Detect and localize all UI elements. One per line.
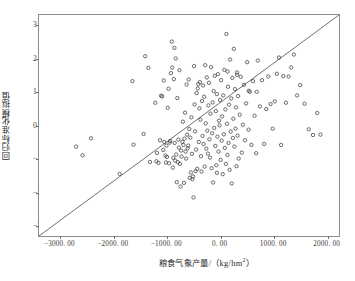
data-point bbox=[231, 136, 234, 139]
data-point-group bbox=[74, 32, 322, 199]
data-point bbox=[142, 132, 145, 135]
data-point bbox=[275, 72, 278, 75]
x-tick-label: −1000. 00 bbox=[151, 240, 182, 248]
data-point bbox=[179, 185, 182, 188]
scatter-plot-figure: 回归标准化模拟值 3210−1−2−3 −3000. 00−2000. 00−1… bbox=[0, 0, 355, 281]
data-point bbox=[279, 143, 282, 146]
data-point bbox=[155, 151, 158, 154]
x-tick-mark bbox=[221, 236, 222, 239]
data-point bbox=[295, 94, 298, 97]
data-point bbox=[162, 79, 165, 82]
data-point bbox=[217, 150, 220, 153]
data-point bbox=[173, 46, 176, 49]
data-point bbox=[147, 66, 150, 69]
y-tick-label: 0 bbox=[33, 120, 37, 129]
data-point bbox=[223, 146, 226, 149]
data-point bbox=[225, 122, 228, 125]
data-point bbox=[188, 127, 191, 130]
data-point bbox=[196, 87, 199, 90]
data-point bbox=[244, 102, 247, 105]
data-point bbox=[158, 139, 161, 142]
data-point bbox=[167, 87, 170, 90]
data-point bbox=[220, 139, 223, 142]
data-point bbox=[239, 75, 242, 78]
y-tick-mark bbox=[36, 126, 39, 127]
data-point bbox=[218, 98, 221, 101]
y-axis-title: 回归标准化模拟值 bbox=[1, 14, 15, 237]
data-point bbox=[211, 101, 214, 104]
data-point bbox=[221, 115, 224, 118]
data-point bbox=[201, 84, 204, 87]
data-point bbox=[226, 70, 229, 73]
data-point bbox=[319, 133, 322, 136]
data-point bbox=[311, 133, 314, 136]
data-point bbox=[187, 78, 190, 81]
data-point bbox=[256, 59, 259, 62]
y-tick-mark bbox=[36, 226, 39, 227]
data-point bbox=[214, 109, 217, 112]
data-point bbox=[213, 126, 216, 129]
x-axis-title-tail: ） bbox=[246, 259, 254, 268]
data-point bbox=[177, 138, 180, 141]
data-point bbox=[235, 73, 238, 76]
data-point bbox=[232, 117, 235, 120]
x-tick-label: −3000. 00 bbox=[44, 240, 75, 248]
data-point bbox=[221, 173, 224, 176]
reference-line bbox=[39, 15, 339, 236]
data-point bbox=[215, 164, 218, 167]
data-point bbox=[184, 150, 187, 153]
data-point bbox=[197, 140, 200, 143]
data-point bbox=[215, 92, 218, 95]
data-point bbox=[210, 132, 213, 135]
data-point bbox=[183, 137, 186, 140]
data-point bbox=[287, 75, 290, 78]
data-point bbox=[217, 119, 220, 122]
data-point bbox=[218, 124, 221, 127]
data-point bbox=[190, 116, 193, 119]
data-point bbox=[175, 180, 178, 183]
data-point bbox=[234, 106, 237, 109]
data-point bbox=[179, 149, 182, 152]
data-point bbox=[224, 108, 227, 111]
data-point bbox=[176, 96, 179, 99]
data-point bbox=[194, 148, 197, 151]
data-point bbox=[233, 145, 236, 148]
data-point bbox=[213, 74, 216, 77]
data-point bbox=[161, 95, 164, 98]
data-point bbox=[243, 139, 246, 142]
data-point bbox=[192, 64, 195, 67]
data-point bbox=[251, 79, 254, 82]
y-tick-mark bbox=[36, 92, 39, 93]
data-point bbox=[209, 65, 212, 68]
data-point bbox=[205, 76, 208, 79]
data-point bbox=[173, 141, 176, 144]
data-point bbox=[265, 107, 268, 110]
data-point bbox=[282, 74, 285, 77]
data-point bbox=[224, 162, 227, 165]
data-point bbox=[199, 118, 202, 121]
data-point bbox=[258, 105, 261, 108]
data-point bbox=[198, 107, 201, 110]
data-point bbox=[240, 151, 243, 154]
data-point bbox=[227, 141, 230, 144]
data-point bbox=[166, 106, 169, 109]
data-point bbox=[175, 153, 178, 156]
x-tick-mark bbox=[274, 236, 275, 239]
data-point bbox=[208, 156, 211, 159]
data-point bbox=[202, 95, 205, 98]
data-point bbox=[178, 68, 181, 71]
data-point bbox=[238, 113, 241, 116]
data-point bbox=[210, 167, 213, 170]
data-point bbox=[148, 160, 151, 163]
data-point bbox=[192, 196, 195, 199]
data-point bbox=[216, 135, 219, 138]
data-point bbox=[189, 171, 192, 174]
data-point bbox=[262, 142, 265, 145]
y-tick-mark bbox=[36, 159, 39, 160]
data-point bbox=[131, 79, 134, 82]
data-point bbox=[290, 66, 293, 69]
data-point bbox=[232, 47, 235, 50]
y-tick-label: 3 bbox=[33, 20, 37, 29]
data-point bbox=[118, 172, 121, 175]
data-point bbox=[162, 148, 165, 151]
